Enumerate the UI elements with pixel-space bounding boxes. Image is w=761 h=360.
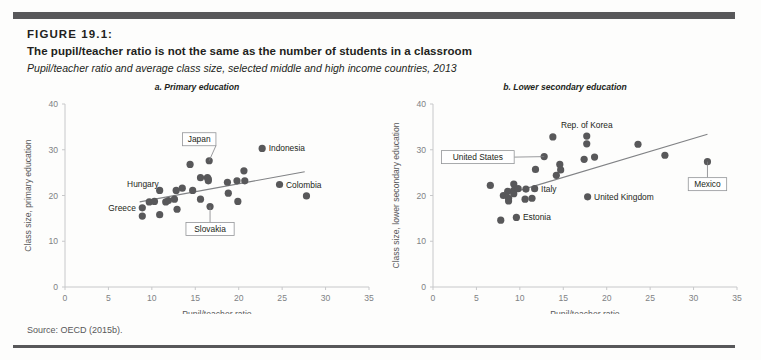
data-point — [233, 177, 240, 184]
x-tick-label: 35 — [364, 293, 374, 303]
data-point — [584, 193, 591, 200]
point-label: Rep. of Korea — [561, 120, 613, 130]
data-point — [528, 195, 535, 202]
point-label: United Kingdom — [594, 192, 654, 202]
data-point — [224, 179, 231, 186]
x-tick-label: 5 — [106, 293, 111, 303]
data-point — [532, 166, 539, 173]
data-point — [513, 214, 520, 221]
data-point — [505, 197, 512, 204]
data-point — [234, 198, 241, 205]
panel-b-title: b. Lower secondary education — [385, 82, 745, 92]
data-point — [139, 212, 146, 219]
figure-subtitle: Pupil/teacher ratio and average class si… — [27, 62, 457, 74]
data-point — [634, 141, 641, 148]
data-point — [173, 206, 180, 213]
y-tick-label: 20 — [416, 191, 426, 201]
point-label: Colombia — [286, 180, 322, 190]
bottom-rule — [13, 345, 735, 348]
data-point — [189, 187, 196, 194]
x-tick-label: 10 — [515, 293, 525, 303]
data-point — [165, 197, 172, 204]
point-label: Greece — [108, 203, 136, 213]
data-point — [197, 196, 204, 203]
callout-leader — [514, 157, 544, 158]
x-tick-label: 25 — [645, 293, 655, 303]
data-point — [186, 161, 193, 168]
figure-container: FIGURE 19.1: The pupil/teacher ratio is … — [0, 0, 761, 360]
data-point — [179, 185, 186, 192]
data-point — [522, 185, 529, 192]
data-point — [487, 182, 494, 189]
source-note: Source: OECD (2015b). — [27, 325, 123, 335]
x-tick-label: 5 — [474, 293, 479, 303]
y-axis-title: Class size, lower secondary education — [391, 122, 401, 268]
data-point — [205, 175, 212, 182]
panel-a-title: a. Primary education — [17, 82, 377, 92]
x-tick-label: 25 — [277, 293, 287, 303]
x-tick-label: 20 — [234, 293, 244, 303]
chart-panel-primary-education: a. Primary education 0102030400510152025… — [17, 82, 377, 317]
callout-label: Slovakia — [194, 224, 226, 234]
data-point — [549, 133, 556, 140]
data-point — [240, 167, 247, 174]
data-point — [531, 185, 538, 192]
chart-panel-lower-secondary-education: b. Lower secondary education 01020304005… — [385, 82, 745, 317]
data-point — [581, 156, 588, 163]
x-tick-label: 0 — [431, 293, 436, 303]
figure-number: FIGURE 19.1: — [27, 28, 113, 40]
y-axis-title: Class size, primary education — [23, 139, 33, 251]
callout-label: Mexico — [694, 179, 721, 189]
top-rule — [13, 12, 735, 19]
callout-leader — [209, 146, 216, 161]
data-point — [259, 145, 266, 152]
x-tick-label: 30 — [321, 293, 331, 303]
y-tick-label: 40 — [48, 99, 58, 109]
point-label: Estonia — [523, 212, 551, 222]
data-point — [557, 166, 564, 173]
data-point — [661, 152, 668, 159]
y-tick-label: 0 — [421, 282, 426, 292]
y-tick-label: 30 — [416, 145, 426, 155]
data-point — [139, 204, 146, 211]
data-point — [515, 185, 522, 192]
data-point — [151, 198, 158, 205]
x-tick-label: 0 — [63, 293, 68, 303]
data-point — [276, 181, 283, 188]
point-label: Italy — [541, 184, 557, 194]
y-tick-label: 30 — [48, 145, 58, 155]
data-point — [225, 190, 232, 197]
x-axis-title: Pupil/teacher ratio — [182, 309, 251, 314]
point-label: Indonesia — [269, 143, 306, 153]
data-point — [583, 140, 590, 147]
y-tick-label: 10 — [416, 236, 426, 246]
y-tick-label: 20 — [48, 191, 58, 201]
x-tick-label: 15 — [191, 293, 201, 303]
panel-a-plot: 01020304005101520253035Pupil/teacher rat… — [17, 94, 377, 314]
data-point — [171, 196, 178, 203]
y-tick-label: 0 — [53, 282, 58, 292]
data-point — [303, 192, 310, 199]
callout-label: Japan — [188, 134, 211, 144]
y-tick-label: 10 — [48, 236, 58, 246]
data-point — [497, 217, 504, 224]
x-tick-label: 35 — [732, 293, 742, 303]
x-axis-title: Pupil/teacher ratio — [550, 309, 619, 314]
x-tick-label: 15 — [559, 293, 569, 303]
callout-label: United States — [453, 152, 503, 162]
data-point — [241, 177, 248, 184]
point-label-hungary: Hungary — [127, 179, 159, 189]
data-point — [156, 211, 163, 218]
x-tick-label: 10 — [147, 293, 157, 303]
data-point — [206, 157, 213, 164]
data-point — [521, 196, 528, 203]
y-tick-label: 40 — [416, 99, 426, 109]
x-tick-label: 30 — [689, 293, 699, 303]
figure-title: The pupil/teacher ratio is not the same … — [27, 45, 472, 57]
data-point — [583, 132, 590, 139]
x-tick-label: 20 — [602, 293, 612, 303]
data-point — [591, 153, 598, 160]
panel-b-plot: 01020304005101520253035Pupil/teacher rat… — [385, 94, 745, 314]
data-point — [197, 174, 204, 181]
